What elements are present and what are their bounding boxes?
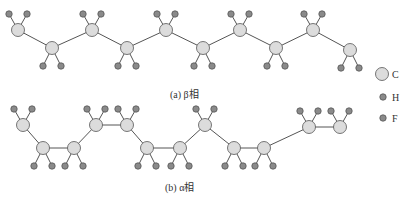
fluorine-atom-icon	[153, 163, 159, 169]
hydrogen-atom-icon	[115, 63, 121, 69]
hydrogen-atom-icon	[31, 163, 37, 169]
fluorine-atom-icon	[102, 106, 108, 112]
hydrogen-atom-icon	[338, 65, 344, 71]
fluorine-atom-icon	[49, 163, 55, 169]
hydrogen-atom-icon	[297, 108, 303, 114]
hydrogen-atom-icon	[6, 11, 12, 17]
hydrogen-atom-icon	[301, 11, 307, 17]
fluorine-atom-icon	[282, 63, 288, 69]
caption-beta-phase: (a) β相	[170, 86, 199, 101]
carbon-atom-icon	[121, 42, 134, 55]
hydrogen-atom-icon	[11, 106, 17, 112]
fluorine-atom-icon	[209, 63, 215, 69]
hydrogen-atom-icon	[168, 163, 174, 169]
carbon-atom-icon	[90, 119, 103, 132]
fluorine-atom-icon	[315, 108, 321, 114]
hydrogen-atom-icon	[154, 11, 160, 17]
carbon-atom-icon	[199, 119, 212, 132]
legend-hydrogen-icon	[380, 94, 386, 100]
carbon-atom-icon	[17, 119, 30, 132]
legend-fluorine-icon	[380, 115, 386, 121]
hydrogen-atom-icon	[193, 106, 199, 112]
hydrogen-atom-icon	[80, 11, 86, 17]
fluorine-atom-icon	[246, 11, 252, 17]
fluorine-atom-icon	[346, 108, 352, 114]
hydrogen-atom-icon	[115, 106, 121, 112]
fluorine-atom-icon	[319, 11, 325, 17]
molecular-structure-svg	[0, 0, 408, 197]
carbon-atom-icon	[334, 121, 347, 134]
hydrogen-atom-icon	[62, 163, 68, 169]
legend-fluorine-label: F	[392, 113, 398, 124]
hydrogen-atom-icon	[40, 63, 46, 69]
carbon-atom-icon	[121, 119, 134, 132]
legend-hydrogen-label: H	[392, 92, 399, 103]
carbon-atom-icon	[303, 121, 316, 134]
carbon-atom-icon	[12, 24, 25, 37]
hydrogen-atom-icon	[328, 108, 334, 114]
carbon-atom-icon	[86, 24, 99, 37]
fluorine-atom-icon	[98, 11, 104, 17]
carbon-atom-icon	[258, 142, 271, 155]
hydrogen-atom-icon	[228, 11, 234, 17]
carbon-atom-icon	[46, 42, 59, 55]
carbon-atom-icon	[160, 24, 173, 37]
caption-alpha-phase: (b) α相	[165, 179, 194, 194]
hydrogen-atom-icon	[84, 106, 90, 112]
carbon-atom-icon	[174, 142, 187, 155]
carbon-atom-icon	[307, 24, 320, 37]
fluorine-atom-icon	[240, 163, 246, 169]
hydrogen-atom-icon	[222, 163, 228, 169]
fluorine-atom-icon	[133, 106, 139, 112]
legend-carbon-icon	[376, 68, 389, 81]
bond	[264, 127, 309, 148]
carbon-atom-icon	[270, 42, 283, 55]
carbon-atom-icon	[197, 42, 210, 55]
hydrogen-atom-icon	[135, 163, 141, 169]
carbon-atom-icon	[37, 142, 50, 155]
carbon-atom-icon	[68, 142, 81, 155]
fluorine-atom-icon	[186, 163, 192, 169]
fluorine-atom-icon	[133, 63, 139, 69]
fluorine-atom-icon	[24, 11, 30, 17]
fluorine-atom-icon	[29, 106, 35, 112]
fluorine-atom-icon	[80, 163, 86, 169]
fluorine-atom-icon	[356, 65, 362, 71]
fluorine-atom-icon	[270, 163, 276, 169]
carbon-atom-icon	[344, 44, 357, 57]
diagram-root: (a) β相 (b) α相 C H F	[0, 0, 408, 197]
fluorine-atom-icon	[172, 11, 178, 17]
carbon-atom-icon	[228, 142, 241, 155]
fluorine-atom-icon	[211, 106, 217, 112]
carbon-atom-icon	[234, 24, 247, 37]
fluorine-atom-icon	[58, 63, 64, 69]
hydrogen-atom-icon	[191, 63, 197, 69]
hydrogen-atom-icon	[264, 63, 270, 69]
carbon-atom-icon	[141, 142, 154, 155]
hydrogen-atom-icon	[252, 163, 258, 169]
legend-carbon-label: C	[392, 69, 399, 80]
